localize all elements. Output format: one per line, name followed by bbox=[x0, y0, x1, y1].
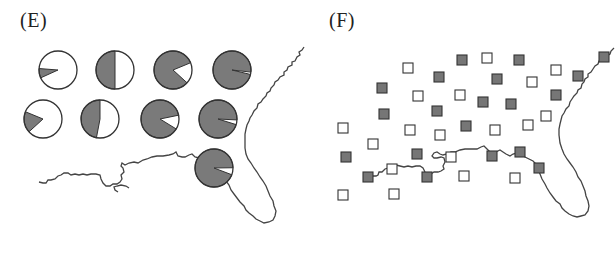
open-square-marker bbox=[435, 130, 445, 140]
filled-square-marker bbox=[432, 106, 442, 116]
filled-square-marker bbox=[487, 151, 497, 161]
open-square-marker bbox=[338, 123, 348, 133]
pie-marker bbox=[213, 51, 251, 89]
filled-square-marker bbox=[412, 149, 422, 159]
filled-square-marker bbox=[514, 55, 524, 65]
filled-square-marker bbox=[363, 172, 373, 182]
filled-square-marker bbox=[551, 90, 561, 100]
open-square-marker bbox=[459, 171, 469, 181]
pie-marker bbox=[154, 51, 192, 89]
open-square-marker bbox=[368, 139, 378, 149]
filled-square-marker bbox=[341, 152, 351, 162]
pie-marker bbox=[199, 100, 237, 138]
filled-square-marker bbox=[379, 109, 389, 119]
filled-square-marker bbox=[515, 147, 525, 157]
open-square-marker bbox=[413, 91, 423, 101]
open-square-marker bbox=[338, 190, 348, 200]
filled-square-marker bbox=[506, 99, 516, 109]
panel-f-map bbox=[305, 0, 615, 273]
filled-square-marker bbox=[377, 83, 387, 93]
pie-marker bbox=[24, 100, 62, 138]
open-square-marker bbox=[405, 125, 415, 135]
pie-marker bbox=[96, 51, 134, 89]
panel-e: (E) bbox=[0, 0, 307, 273]
pie-marker bbox=[81, 100, 119, 138]
open-square-marker bbox=[523, 120, 533, 130]
open-square-marker bbox=[551, 65, 561, 75]
pie-marker bbox=[195, 149, 233, 187]
open-square-marker bbox=[403, 63, 413, 73]
square-markers bbox=[338, 52, 609, 200]
open-square-marker bbox=[510, 173, 520, 183]
filled-square-marker bbox=[478, 97, 488, 107]
panel-f: (F) bbox=[305, 0, 612, 273]
filled-square-marker bbox=[457, 55, 467, 65]
panel-e-map bbox=[0, 0, 307, 273]
open-square-marker bbox=[455, 90, 465, 100]
filled-square-marker bbox=[599, 52, 609, 62]
filled-square-marker bbox=[492, 74, 502, 84]
open-square-marker bbox=[389, 189, 399, 199]
open-square-marker bbox=[490, 125, 500, 135]
filled-square-marker bbox=[461, 121, 471, 131]
open-square-marker bbox=[387, 164, 397, 174]
open-square-marker bbox=[541, 111, 551, 121]
filled-square-marker bbox=[422, 172, 432, 182]
filled-square-marker bbox=[434, 72, 444, 82]
open-square-marker bbox=[527, 77, 537, 87]
pie-markers bbox=[24, 51, 251, 187]
open-square-marker bbox=[446, 152, 456, 162]
filled-square-marker bbox=[573, 71, 583, 81]
open-square-marker bbox=[482, 53, 492, 63]
pie-marker bbox=[141, 100, 179, 138]
pie-marker bbox=[39, 51, 77, 89]
filled-square-marker bbox=[534, 163, 544, 173]
